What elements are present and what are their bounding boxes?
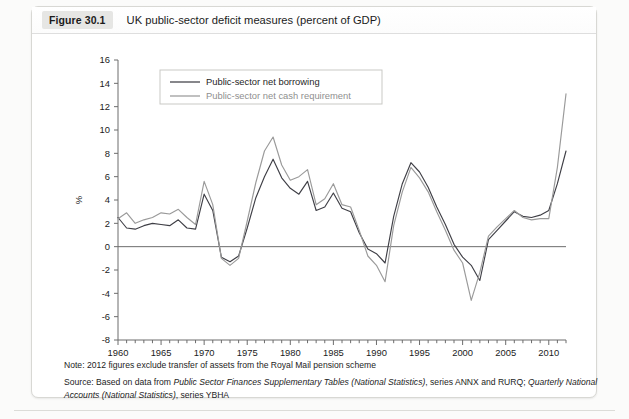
x-tick-label: 1985 <box>323 347 344 358</box>
source-italic-1: Public Sector Finances Supplementary Tab… <box>173 377 425 387</box>
y-tick-label: -8 <box>102 334 110 345</box>
y-tick-label: 2 <box>105 218 110 229</box>
figure-header: Figure 30.1 UK public-sector deficit mea… <box>32 7 596 34</box>
source-suffix: , series YBHA <box>176 390 229 400</box>
y-tick-label: 8 <box>105 148 110 159</box>
figure-card: Figure 30.1 UK public-sector deficit mea… <box>31 6 597 398</box>
figure-notes: Note: 2012 figures exclude transfer of a… <box>64 359 624 402</box>
figure-number-badge: Figure 30.1 <box>42 11 113 29</box>
legend-label-1: Public-sector net borrowing <box>206 76 320 87</box>
figure-page: Figure 30.1 UK public-sector deficit mea… <box>0 0 629 419</box>
y-tick-label: 10 <box>100 124 110 135</box>
source-text: Source: Based on data from Public Sector… <box>64 376 624 402</box>
x-tick-label: 2005 <box>495 347 516 358</box>
y-tick-label: 14 <box>100 78 110 89</box>
plot-area: -8-6-4-20246810121416%196019651970197519… <box>32 34 596 399</box>
y-tick-label: 12 <box>100 101 110 112</box>
y-axis-label: % <box>73 196 84 204</box>
x-tick-label: 1990 <box>366 347 387 358</box>
source-prefix: Source: Based on data from <box>64 377 173 387</box>
figure-title: UK public-sector deficit measures (perce… <box>127 14 381 26</box>
legend-label-2: Public-sector net cash requirement <box>206 90 351 101</box>
line-chart: -8-6-4-20246810121416%196019651970197519… <box>32 34 598 399</box>
x-tick-label: 1975 <box>237 347 258 358</box>
x-tick-label: 1970 <box>194 347 215 358</box>
x-tick-label: 2010 <box>538 347 559 358</box>
x-tick-label: 1960 <box>108 347 129 358</box>
x-tick-label: 2000 <box>452 347 473 358</box>
note-text: Note: 2012 figures exclude transfer of a… <box>64 359 624 371</box>
y-tick-label: -2 <box>102 264 110 275</box>
x-tick-label: 1965 <box>151 347 172 358</box>
y-tick-label: 0 <box>105 241 110 252</box>
x-tick-label: 1995 <box>409 347 430 358</box>
page-divider <box>14 410 615 411</box>
y-tick-label: 16 <box>100 54 110 65</box>
series-line-2 <box>118 94 566 300</box>
y-tick-label: -4 <box>102 288 110 299</box>
y-tick-label: -6 <box>102 311 110 322</box>
x-tick-label: 1980 <box>280 347 301 358</box>
y-tick-label: 4 <box>105 194 110 205</box>
source-mid: , series ANNX and RURQ; <box>425 377 528 387</box>
y-tick-label: 6 <box>105 171 110 182</box>
